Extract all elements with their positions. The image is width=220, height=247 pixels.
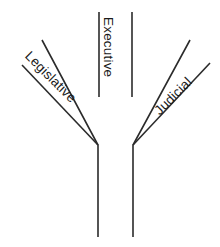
branch-label-executive: Executive [102, 17, 116, 77]
tree-diagram: Executive Legislative Judicial [0, 0, 220, 247]
trunk-right-line [133, 40, 190, 237]
